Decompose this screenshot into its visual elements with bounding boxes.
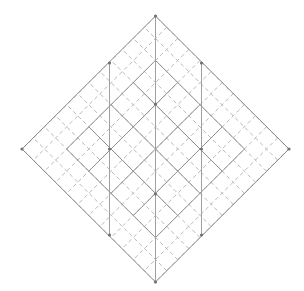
lattice-canvas	[0, 0, 304, 291]
lattice-node	[154, 280, 157, 283]
lattice-node	[20, 147, 23, 150]
lattice-node	[287, 147, 290, 150]
lattice-node	[108, 147, 111, 150]
lattice-node	[108, 61, 111, 64]
lattice-node	[200, 147, 203, 150]
lattice-figure	[0, 0, 304, 291]
lattice-node	[154, 192, 157, 195]
lattice-node	[200, 233, 203, 236]
lattice-node	[154, 102, 157, 105]
lattice-node	[108, 233, 111, 236]
lattice-node	[200, 61, 203, 64]
lattice-node	[154, 14, 157, 17]
